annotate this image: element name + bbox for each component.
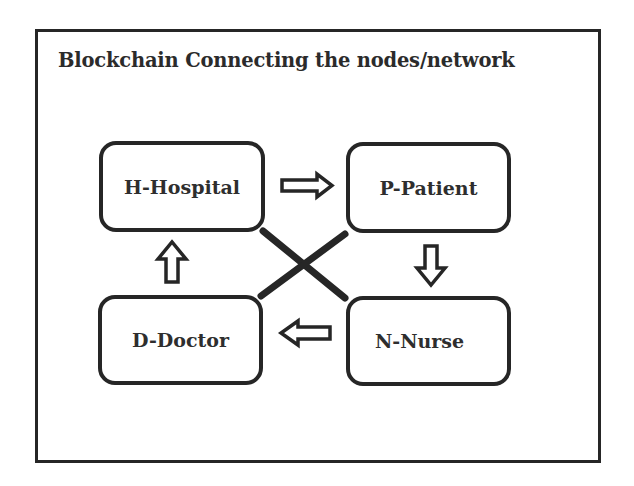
arrow-up-icon xyxy=(158,242,186,282)
node-doctor-label: D-Doctor xyxy=(132,329,229,351)
arrow-left-icon xyxy=(281,321,330,345)
arrow-down-icon xyxy=(417,246,445,285)
node-hospital-label: H-Hospital xyxy=(124,176,240,198)
node-doctor: D-Doctor xyxy=(98,295,263,385)
node-patient: P-Patient xyxy=(346,142,511,233)
node-hospital: H-Hospital xyxy=(99,141,265,232)
arrow-right-icon xyxy=(282,174,332,197)
node-patient-label: P-Patient xyxy=(380,177,478,199)
connectors xyxy=(0,0,634,486)
node-nurse-label: N-Nurse xyxy=(375,330,464,352)
node-nurse: N-Nurse xyxy=(346,296,511,386)
